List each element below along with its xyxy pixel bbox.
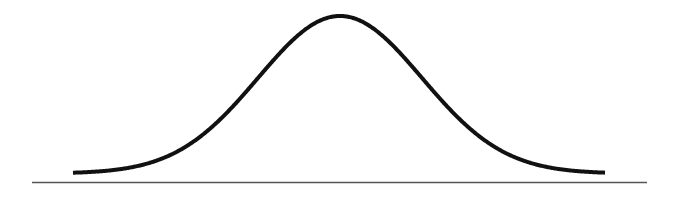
bell-curve	[73, 16, 605, 173]
bell-curve-diagram	[0, 0, 684, 197]
